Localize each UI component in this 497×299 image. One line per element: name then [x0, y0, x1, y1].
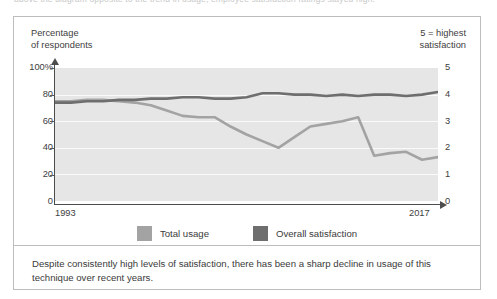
y-axis-arrow-icon	[51, 58, 59, 65]
legend-swatch-overall-satisfaction	[253, 226, 268, 241]
line-overall-satisfaction	[55, 92, 438, 103]
y2-tick-label-1: 1	[445, 169, 469, 179]
plot-area	[55, 68, 438, 201]
plot-wrap: 100% 80 60 40 20 0 5 4 3 2 1 0	[14, 17, 480, 229]
y2-tick-label-0: 0	[445, 196, 469, 206]
chart-block: Percentage of respondents 5 = highest sa…	[14, 17, 480, 245]
x-axis-arrow-icon	[440, 201, 447, 209]
x-tick-label-end: 2017	[409, 208, 430, 218]
figure-container: Percentage of respondents 5 = highest sa…	[13, 16, 481, 290]
legend-swatch-total-usage	[137, 226, 152, 241]
x-axis-line	[54, 204, 441, 205]
legend-label-total-usage: Total usage	[160, 228, 209, 239]
y-tick-label-40: 40	[19, 142, 53, 152]
y-tick-label-0: 0	[19, 196, 53, 206]
y-tick-label-80: 80	[19, 89, 53, 99]
y2-tick-label-5: 5	[445, 62, 469, 72]
y-tick-label-20: 20	[19, 169, 53, 179]
line-total-usage	[55, 100, 438, 160]
y2-tick-label-3: 3	[445, 116, 469, 126]
cut-off-body-text: above the diagram opposite to the trend …	[14, 0, 484, 6]
caption-text: Despite consistently high levels of sati…	[32, 257, 462, 284]
legend-item-overall-satisfaction[interactable]: Overall satisfaction	[253, 226, 357, 241]
x-tick-label-start: 1993	[55, 208, 76, 218]
caption-box: Despite consistently high levels of sati…	[13, 245, 481, 291]
y-axis-line	[54, 64, 55, 205]
y-tick-label-60: 60	[19, 116, 53, 126]
chart-legend: Total usage Overall satisfaction	[14, 220, 480, 246]
y2-tick-label-4: 4	[445, 89, 469, 99]
series-lines	[55, 68, 438, 201]
legend-item-total-usage[interactable]: Total usage	[137, 226, 209, 241]
y2-tick-label-2: 2	[445, 142, 469, 152]
legend-label-overall-satisfaction: Overall satisfaction	[276, 228, 357, 239]
y-tick-label-100: 100%	[19, 62, 53, 72]
